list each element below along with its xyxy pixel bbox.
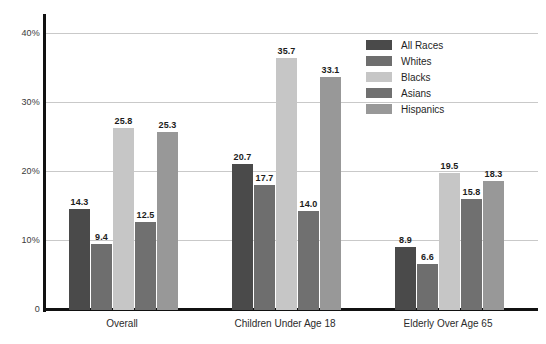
legend-label: All Races	[401, 40, 443, 51]
bar-rect	[135, 222, 156, 310]
legend-swatch-icon	[366, 56, 392, 66]
bar-value-label: 25.8	[115, 116, 133, 126]
legend-item-whites[interactable]: Whites	[366, 54, 486, 68]
legend-label: Asians	[401, 88, 431, 99]
bar-rect	[276, 58, 297, 310]
bar-rect	[254, 185, 275, 310]
bar-group-children: 20.7 17.7 35.7 14.0 33.1	[232, 14, 339, 310]
legend-item-asians[interactable]: Asians	[366, 86, 486, 100]
legend-label: Whites	[401, 56, 432, 67]
bar-value-label: 33.1	[322, 65, 340, 75]
bar-rect	[298, 211, 319, 310]
x-axis-label-children: Children Under Age 18	[234, 318, 335, 329]
bar-rect	[439, 173, 460, 310]
bar-rect	[113, 128, 134, 310]
bar-value-label: 14.3	[71, 197, 89, 207]
bar-value-label: 6.6	[421, 252, 434, 262]
legend-swatch-icon	[366, 88, 392, 98]
bar-rect	[91, 244, 112, 310]
y-tick-label-10: 10%	[6, 235, 40, 245]
bar-rect	[69, 209, 90, 310]
bar-rect	[232, 164, 253, 310]
legend-swatch-icon	[366, 72, 392, 82]
y-axis-tick-labels: 40% 30% 20% 10% 0	[0, 0, 40, 344]
bar-value-label: 15.8	[463, 187, 481, 197]
bar-rect	[395, 247, 416, 310]
bar-rect	[157, 132, 178, 310]
bar-rect	[461, 199, 482, 310]
bar-chart: 40% 30% 20% 10% 0 14.3 9.4 25.8	[0, 0, 546, 344]
bar-value-label: 8.9	[399, 235, 412, 245]
bar-rect	[483, 181, 504, 310]
legend: All Races Whites Blacks Asians Hispanics	[366, 38, 486, 118]
bar-rect	[320, 77, 341, 310]
y-tick-label-20: 20%	[6, 166, 40, 176]
legend-swatch-icon	[366, 104, 392, 114]
bar-value-label: 25.3	[159, 120, 177, 130]
bar-value-label: 17.7	[256, 173, 274, 183]
bar-value-label: 14.0	[300, 199, 318, 209]
legend-label: Hispanics	[401, 104, 444, 115]
x-axis-label-elderly: Elderly Over Age 65	[404, 318, 493, 329]
legend-item-blacks[interactable]: Blacks	[366, 70, 486, 84]
bar-value-label: 9.4	[95, 232, 108, 242]
legend-swatch-icon	[366, 40, 392, 50]
bar-value-label: 35.7	[278, 46, 296, 56]
y-tick-label-40: 40%	[6, 28, 40, 38]
legend-item-all-races[interactable]: All Races	[366, 38, 486, 52]
y-tick-label-30: 30%	[6, 97, 40, 107]
y-tick-label-0: 0	[6, 304, 40, 314]
bar-rect	[417, 264, 438, 311]
bar-group-overall: 14.3 9.4 25.8 12.5 25.3	[69, 14, 176, 310]
legend-label: Blacks	[401, 72, 430, 83]
bar-value-label: 20.7	[234, 152, 252, 162]
x-axis-label-overall: Overall	[106, 318, 138, 329]
legend-item-hispanics[interactable]: Hispanics	[366, 102, 486, 116]
bar-value-label: 19.5	[441, 161, 459, 171]
bar-value-label: 12.5	[137, 210, 155, 220]
bar-value-label: 18.3	[485, 169, 503, 179]
